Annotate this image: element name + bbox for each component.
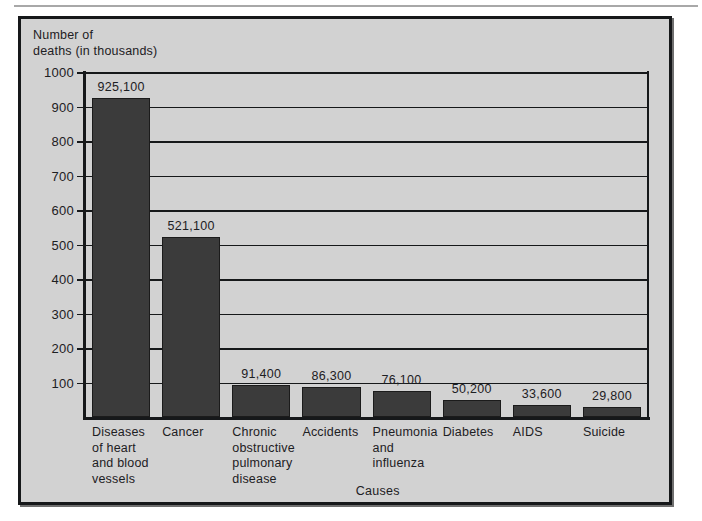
x-axis-line — [83, 417, 650, 420]
gridline-900 — [86, 107, 647, 109]
bar-value-label: 33,600 — [522, 387, 562, 401]
y-tick-label-400: 400 — [51, 272, 74, 287]
y-tick-label-700: 700 — [51, 168, 74, 183]
x-axis-title: Causes — [356, 484, 400, 498]
category-label: AIDS — [513, 425, 587, 441]
bar — [583, 407, 641, 417]
category-label: Cancer — [162, 425, 236, 441]
y-tick-200 — [77, 348, 84, 350]
figure-page: Number of deaths (in thousands) 925,1005… — [0, 0, 702, 521]
category-label: Diseases of heart and blood vessels — [92, 425, 166, 487]
plot-area: 925,100521,10091,40086,30076,10050,20033… — [86, 72, 650, 417]
y-tick-label-1000: 1000 — [44, 65, 74, 80]
y-tick-label-200: 200 — [51, 341, 74, 356]
bar-value-label: 86,300 — [311, 369, 351, 383]
category-label: Chronic obstructive pulmonary disease — [232, 425, 306, 487]
bar-value-label: 925,100 — [97, 80, 144, 94]
category-label: Suicide — [583, 425, 657, 441]
bar-value-label: 29,800 — [592, 389, 632, 403]
bar — [513, 405, 571, 417]
y-tick-label-600: 600 — [51, 203, 74, 218]
bar-value-label: 521,100 — [168, 219, 215, 233]
y-tick-label-300: 300 — [51, 306, 74, 321]
y-tick-700 — [77, 176, 84, 178]
y-tick-400 — [77, 279, 84, 281]
y-tick-600 — [77, 210, 84, 212]
y-tick-label-900: 900 — [51, 99, 74, 114]
bar — [373, 391, 431, 417]
y-tick-300 — [77, 314, 84, 316]
category-label: Diabetes — [443, 425, 517, 441]
y-tick-800 — [77, 141, 84, 143]
y-axis-title: Number of deaths (in thousands) — [33, 27, 157, 59]
y-tick-label-100: 100 — [51, 375, 74, 390]
bar-value-label: 76,100 — [382, 373, 422, 387]
gridline-600 — [86, 210, 647, 212]
bar — [162, 237, 220, 417]
bar-value-label: 91,400 — [241, 367, 281, 381]
bar — [232, 385, 290, 417]
bar — [443, 400, 501, 417]
gridline-800 — [86, 141, 647, 143]
y-tick-900 — [77, 107, 84, 109]
y-tick-label-800: 800 — [51, 134, 74, 149]
category-label: Pneumonia and influenza — [373, 425, 447, 472]
y-tick-1000 — [77, 72, 84, 74]
top-divider-rule — [14, 5, 698, 7]
y-tick-label-500: 500 — [51, 237, 74, 252]
bar-value-label: 50,200 — [452, 382, 492, 396]
gridline-700 — [86, 176, 647, 178]
bar — [92, 98, 150, 417]
bar — [302, 387, 360, 417]
y-tick-500 — [77, 245, 84, 247]
plot-right-edge — [647, 71, 649, 417]
category-label: Accidents — [302, 425, 376, 441]
chart-figure-panel: Number of deaths (in thousands) 925,1005… — [18, 16, 672, 505]
y-tick-100 — [77, 383, 84, 385]
gridline-1000 — [86, 72, 647, 74]
